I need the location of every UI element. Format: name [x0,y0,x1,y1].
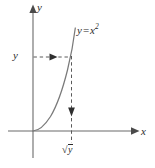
x-axis-arrowhead [131,127,140,134]
parabola-curve [33,28,75,131]
horizontal-dashed-arrowhead [50,54,58,61]
y-axis-arrowhead [29,5,36,14]
radical-radicand: y [68,144,73,155]
y-axis-label: y [37,2,42,13]
math-figure-parabola: y x y y=x2 √y [0,0,155,168]
curve-equation-label: y=x2 [77,23,99,36]
y-value-tick-label: y [13,50,18,61]
curve-equation-operator: = [82,24,90,36]
curve-equation-exponent: 2 [95,22,99,31]
x-axis-label: x [141,126,146,137]
sqrt-y-tick-label: √y [62,144,73,155]
radical-group: √y [62,144,73,155]
radical-sign-icon: √ [62,145,68,155]
vertical-dashed-arrowhead [68,108,75,117]
